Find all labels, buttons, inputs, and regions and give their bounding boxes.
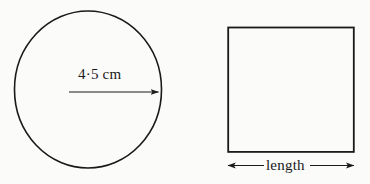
circle-outline bbox=[15, 11, 162, 168]
geometry-figure: 4·5 cm length bbox=[0, 0, 370, 184]
square-outline bbox=[228, 28, 354, 152]
square-length-label: length bbox=[266, 157, 305, 173]
circle-radius-label: 4·5 cm bbox=[78, 66, 121, 82]
figure-drawing bbox=[0, 0, 370, 184]
